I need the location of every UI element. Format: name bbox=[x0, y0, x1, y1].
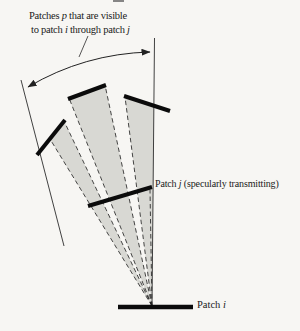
label-text: through patch bbox=[68, 24, 128, 35]
label-patch-i: Patch i bbox=[197, 299, 226, 310]
label-text: that are visible bbox=[67, 10, 127, 21]
angle-arc bbox=[28, 52, 150, 87]
label-patch-j: Patch j (specularly transmitting) bbox=[155, 178, 279, 189]
label-text: Patch bbox=[197, 299, 223, 310]
italic-symbol: i bbox=[223, 299, 226, 310]
caption-patches-visible: Patches p that are visible to patch i th… bbox=[29, 9, 130, 36]
caption-leader-line bbox=[79, 36, 88, 57]
scan-artifact bbox=[113, 0, 124, 2]
italic-symbol: j bbox=[127, 24, 130, 35]
figure-page: Patches p that are visible to patch i th… bbox=[0, 0, 300, 331]
label-text: to patch bbox=[31, 24, 65, 35]
label-text: Patches bbox=[29, 10, 62, 21]
label-text: Patch bbox=[155, 178, 179, 189]
caption-line-1: Patches p that are visible bbox=[29, 9, 130, 23]
label-text: (specularly transmitting) bbox=[181, 178, 278, 189]
beam-boundary-left bbox=[21, 80, 64, 246]
diagram-svg bbox=[0, 0, 300, 331]
caption-line-2: to patch i through patch j bbox=[29, 23, 130, 37]
